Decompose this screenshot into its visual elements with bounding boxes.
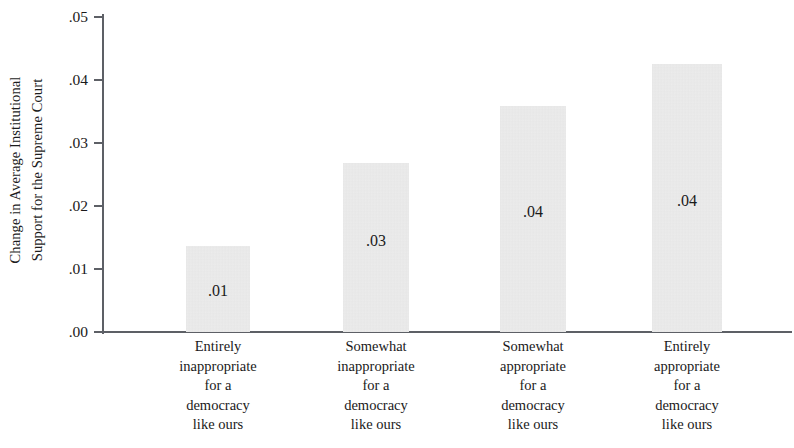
x-label-4-line-4: democracy <box>617 396 757 416</box>
y-axis-tick-00 <box>94 331 103 333</box>
y-axis-line <box>102 14 104 334</box>
y-axis-title: Change in Average Institutional Support … <box>0 0 52 340</box>
x-label-1-line-1: Entirely <box>148 337 288 357</box>
bar-value-label-1: .01 <box>186 282 250 300</box>
y-axis-tick-05 <box>94 16 103 18</box>
y-axis-tick-01 <box>94 268 103 270</box>
y-axis-tick-03 <box>94 142 103 144</box>
bar-value-label-2: .03 <box>343 232 409 250</box>
y-axis-title-line-1: Change in Average Institutional <box>4 77 26 264</box>
y-axis-label-03: .03 <box>28 135 88 151</box>
x-label-4-line-1: Entirely <box>617 337 757 357</box>
x-label-4-line-5: like ours <box>617 415 757 435</box>
y-axis-label-01: .01 <box>28 261 88 277</box>
y-axis-label-04: .04 <box>28 72 88 88</box>
x-label-1-line-2: inappropriate <box>148 357 288 377</box>
x-label-2-line-2: inappropriate <box>306 357 446 377</box>
y-axis-label-00: .00 <box>28 324 88 340</box>
y-axis-label-05: .05 <box>28 9 88 25</box>
x-label-2-line-1: Somewhat <box>306 337 446 357</box>
x-label-2-line-4: democracy <box>306 396 446 416</box>
x-label-3-line-4: democracy <box>463 396 603 416</box>
bar-value-label-3: .04 <box>500 203 566 221</box>
x-label-4-line-3: for a <box>617 376 757 396</box>
x-label-1-line-3: for a <box>148 376 288 396</box>
bar-chart-figure: Change in Average Institutional Support … <box>0 0 794 448</box>
x-axis-label-somewhat-appropriate: Somewhat appropriate for a democracy lik… <box>463 337 603 435</box>
x-label-3-line-5: like ours <box>463 415 603 435</box>
x-label-2-line-3: for a <box>306 376 446 396</box>
y-axis-tick-04 <box>94 79 103 81</box>
y-axis-tick-02 <box>94 205 103 207</box>
y-axis-title-line-2: Support for the Supreme Court <box>26 77 48 264</box>
x-label-3-line-3: for a <box>463 376 603 396</box>
x-label-3-line-2: appropriate <box>463 357 603 377</box>
x-axis-label-somewhat-inappropriate: Somewhat inappropriate for a democracy l… <box>306 337 446 435</box>
x-axis-label-entirely-inappropriate: Entirely inappropriate for a democracy l… <box>148 337 288 435</box>
y-axis-label-02: .02 <box>28 198 88 214</box>
x-label-1-line-5: like ours <box>148 415 288 435</box>
x-label-3-line-1: Somewhat <box>463 337 603 357</box>
x-label-4-line-2: appropriate <box>617 357 757 377</box>
bar-value-label-4: .04 <box>652 192 722 210</box>
x-label-1-line-4: democracy <box>148 396 288 416</box>
x-label-2-line-5: like ours <box>306 415 446 435</box>
x-axis-label-entirely-appropriate: Entirely appropriate for a democracy lik… <box>617 337 757 435</box>
